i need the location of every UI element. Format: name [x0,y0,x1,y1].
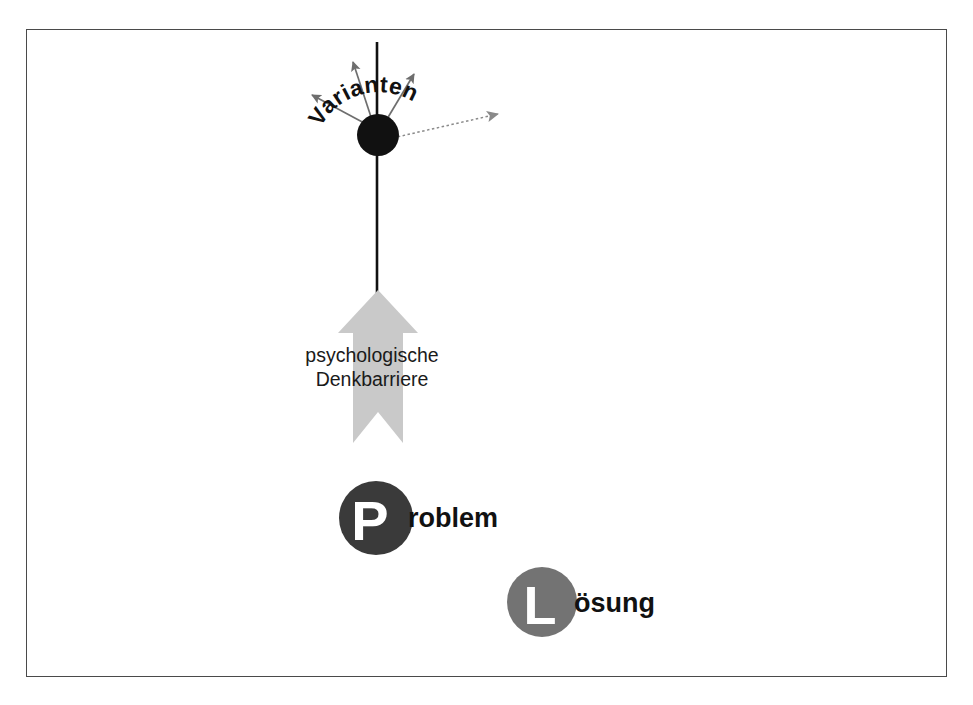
barrier-label-line-2: Denkbarriere [232,368,512,392]
barrier-label-line-1: psychologische [232,344,512,368]
diagram-canvas: Varianten P L psychologische Denkbarrier… [0,0,973,705]
node-problem-label: roblem [408,505,498,532]
barrier-label: psychologische Denkbarriere [232,344,512,392]
node-loesung-label: ösung [574,590,655,617]
